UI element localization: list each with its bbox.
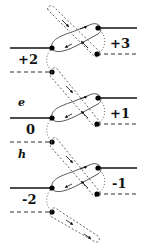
dotted-arc-left-3 — [47, 188, 52, 212]
node — [95, 165, 100, 170]
arrow-bottom-1 — [66, 220, 72, 224]
solid-loop-2 — [52, 94, 101, 122]
arrow-connector-2-3 — [66, 156, 72, 162]
label-e: e — [18, 96, 25, 109]
node — [49, 185, 54, 190]
node — [49, 45, 54, 50]
label-minus2: -2 — [22, 192, 36, 207]
arrow-lower-3 — [66, 184, 72, 187]
label-h: h — [18, 148, 26, 161]
arrow-lower-2 — [66, 114, 72, 117]
solid-loop-3 — [52, 164, 101, 192]
dotted-arc-right-2 — [97, 98, 105, 124]
dotted-arc-right-1 — [97, 28, 105, 54]
label-plus1: +1 — [110, 106, 130, 121]
arrow-dashed-top — [62, 20, 68, 26]
dotted-arc-right-3 — [97, 168, 105, 194]
label-plus2: +2 — [18, 52, 38, 67]
node — [95, 95, 100, 100]
label-zero: 0 — [26, 122, 35, 137]
label-plus3: +3 — [110, 36, 130, 51]
solid-loop-1 — [52, 24, 101, 52]
arrow-dashed-3 — [82, 182, 88, 188]
node — [94, 121, 99, 126]
node — [94, 51, 99, 56]
node — [94, 191, 99, 196]
arrow-connector-1-2 — [66, 86, 72, 92]
dotted-arc-left-1 — [47, 48, 52, 72]
dashed-connector-1-2 — [50, 68, 100, 127]
label-minus1: -1 — [112, 176, 126, 191]
node — [95, 25, 100, 30]
dashed-loop-bottom — [50, 208, 99, 242]
arrow-lower-1 — [66, 44, 72, 47]
node — [49, 115, 54, 120]
band-diagram: +3 +2 e +1 0 h -1 -2 — [0, 0, 144, 248]
dotted-arc-left-2 — [47, 118, 52, 142]
dashed-connector-2-3 — [50, 138, 100, 197]
arrow-dashed-2 — [82, 112, 88, 118]
